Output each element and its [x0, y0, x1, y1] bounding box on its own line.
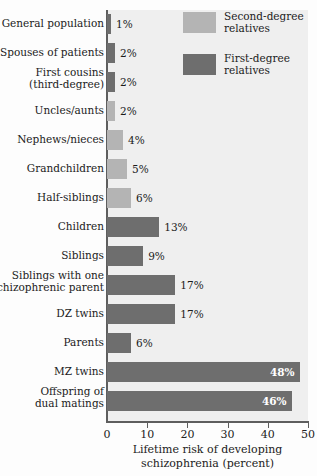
bar-row: Uncles/aunts2%: [0, 101, 317, 121]
bar-value-label: 4%: [128, 134, 145, 146]
bar-value-label: 6%: [136, 192, 153, 204]
bar-category-label: Parents: [0, 337, 104, 349]
bar-row: Children13%: [0, 217, 317, 237]
bar-value-label: 5%: [132, 163, 149, 175]
x-axis-title: Lifetime risk of developing schizophreni…: [107, 443, 308, 470]
legend-swatch-second: [183, 12, 216, 33]
bar: [107, 101, 115, 121]
x-axis-tick-label: 20: [180, 428, 194, 441]
bar-value-label: 17%: [180, 308, 203, 320]
x-axis-tick-label: 0: [104, 428, 111, 441]
bar-row: MZ twins48%: [0, 362, 317, 382]
bar: [107, 333, 131, 353]
bar-category-label: Children: [0, 221, 104, 233]
bar: [107, 275, 175, 295]
x-axis-tick-label: 30: [221, 428, 235, 441]
bar-row: Siblings9%: [0, 246, 317, 266]
bar-category-label: Spouses of patients: [0, 47, 104, 59]
bar: [107, 130, 123, 150]
legend-entry: Second-degree relatives: [183, 10, 317, 46]
bar-value-label: 46%: [262, 395, 287, 407]
bar: [107, 304, 175, 324]
bar: [107, 72, 115, 92]
legend-entry: First-degree relatives: [183, 52, 317, 88]
bar: [107, 43, 115, 63]
bar-value-label: 48%: [270, 366, 295, 378]
bar: [107, 217, 159, 237]
bar-category-label: Grandchildren: [0, 163, 104, 175]
bar-category-label: MZ twins: [0, 366, 104, 378]
bar-category-label: Offspring of dual matings: [0, 386, 104, 409]
bar-category-label: Siblings: [0, 250, 104, 262]
bar-value-label: 1%: [116, 18, 133, 30]
bar-row: Nephews/nieces4%: [0, 130, 317, 150]
bar-row: Half-siblings6%: [0, 188, 317, 208]
bar-row: Grandchildren5%: [0, 159, 317, 179]
bar-category-label: Siblings with one schizophrenic parent: [0, 270, 104, 293]
bar-row: Offspring of dual matings46%: [0, 391, 317, 411]
bar: [107, 246, 143, 266]
bar-category-label: DZ twins: [0, 308, 104, 320]
x-axis-tick-label: 10: [140, 428, 154, 441]
legend-label: Second-degree relatives: [224, 10, 304, 34]
bar: [107, 14, 111, 34]
bar-category-label: Nephews/nieces: [0, 134, 104, 146]
bar-category-label: Half-siblings: [0, 192, 104, 204]
bar-value-label: 2%: [120, 76, 137, 88]
bar-value-label: 6%: [136, 337, 153, 349]
bar: [107, 159, 127, 179]
chart-figure: General population1%Spouses of patients2…: [0, 0, 317, 476]
x-axis-tick-label: 50: [301, 428, 315, 441]
x-axis-tick-label: 40: [261, 428, 275, 441]
bar-category-label: Uncles/aunts: [0, 105, 104, 117]
bar-value-label: 2%: [120, 105, 137, 117]
x-axis-line: [106, 421, 309, 423]
legend-label: First-degree relatives: [224, 52, 290, 76]
bar: [107, 188, 131, 208]
bar-value-label: 9%: [148, 250, 165, 262]
bar-row: Parents6%: [0, 333, 317, 353]
bar-row: Siblings with one schizophrenic parent17…: [0, 275, 317, 295]
bar-category-label: General population: [0, 18, 104, 30]
bar-category-label: First cousins (third-degree): [0, 67, 104, 90]
bar-value-label: 17%: [180, 279, 203, 291]
legend-swatch-first: [183, 54, 216, 75]
bar-value-label: 2%: [120, 47, 137, 59]
bar-row: DZ twins17%: [0, 304, 317, 324]
bar-value-label: 13%: [164, 221, 187, 233]
